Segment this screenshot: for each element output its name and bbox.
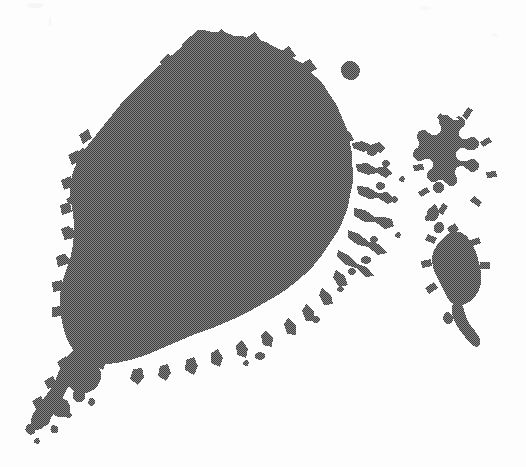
fractal-cluster-figure bbox=[0, 0, 526, 467]
figure-root bbox=[0, 0, 526, 467]
cluster-halftone-fill bbox=[25, 29, 497, 444]
